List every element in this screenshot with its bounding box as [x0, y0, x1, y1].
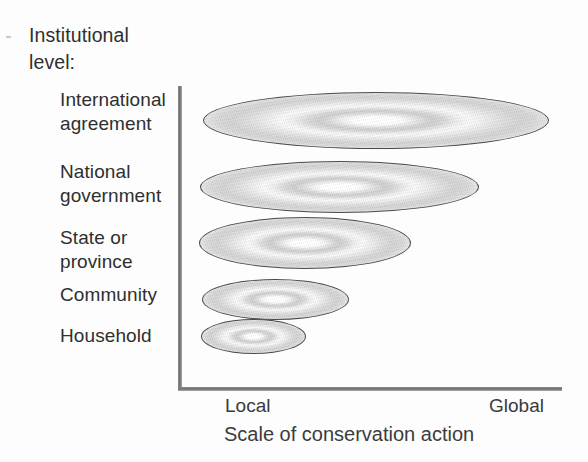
x-tick-global: Global: [489, 395, 544, 417]
category-label: Community: [60, 283, 157, 307]
x-axis-line: [178, 387, 562, 391]
y-axis-title: Institutional level:: [29, 22, 129, 76]
x-tick-local: Local: [225, 395, 270, 417]
scale-ellipse: [199, 217, 411, 269]
category-label: Household: [60, 324, 152, 348]
scale-ellipse: [202, 279, 349, 320]
scale-ellipse: [200, 161, 479, 213]
scale-ellipse: [203, 92, 549, 149]
category-label: National government: [60, 160, 161, 207]
scale-ellipse: [201, 319, 306, 354]
category-label: International agreement: [60, 88, 166, 135]
conservation-scale-figure: Institutional level: International agree…: [0, 0, 588, 462]
scan-speck: [6, 36, 11, 38]
y-axis-line: [178, 86, 182, 391]
x-axis-title: Scale of conservation action: [224, 423, 474, 446]
category-label: State or province: [60, 226, 133, 273]
